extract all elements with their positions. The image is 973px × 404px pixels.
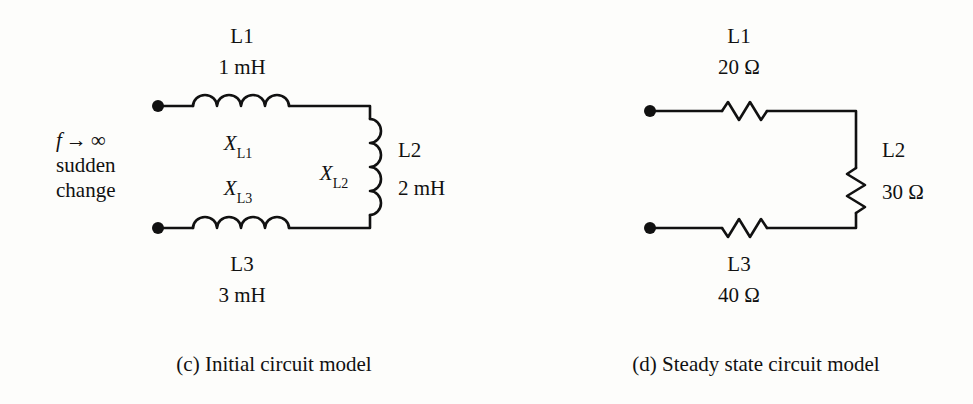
component-value-L2: 2 mH <box>398 178 445 199</box>
panel-caption-c: (c) Initial circuit model <box>176 352 371 377</box>
component-value-L1: 1 mH <box>218 57 265 78</box>
wire-top-right <box>289 106 370 119</box>
reactance-symbol-L1: X <box>224 131 237 155</box>
panel-caption-d: (d) Steady state circuit model <box>632 352 879 377</box>
terminal-dot-top <box>152 100 164 112</box>
inductor-symbol-L2 <box>370 119 381 215</box>
wire-top-right <box>767 111 856 168</box>
component-name-L2: L2 <box>882 140 905 161</box>
component-name-L3: L3 <box>230 254 253 275</box>
wire-right-bottom <box>767 213 856 228</box>
terminal-dot-bottom <box>152 222 164 234</box>
frequency-symbol: f <box>56 128 62 152</box>
resistor-symbol-L1 <box>722 102 767 120</box>
resistor-symbol-L3 <box>722 219 767 237</box>
infinity-symbol: ∞ <box>91 128 106 152</box>
terminal-dot-bottom <box>644 222 656 234</box>
inductor-symbol-L3 <box>193 217 289 228</box>
figure-canvas: L1 1 mH f→∞ sudden change XL1 XL3 XL2 L2… <box>0 0 973 404</box>
terminal-dot-top <box>644 105 656 117</box>
component-name-L1: L1 <box>230 26 253 47</box>
reactance-symbol-L2: X <box>320 161 333 185</box>
inductor-symbol-L1 <box>193 95 289 106</box>
frequency-condition-note: f→∞ sudden change <box>56 128 116 203</box>
component-name-L3: L3 <box>727 254 750 275</box>
steady-state-circuit-panel: L1 20 Ω L2 30 Ω L3 40 Ω (d) Steady state… <box>490 0 973 404</box>
resistor-symbol-L2 <box>847 168 865 213</box>
reactance-subscript-L2: L2 <box>333 176 349 191</box>
reactance-subscript-L3: L3 <box>237 191 253 206</box>
wire-right-bottom <box>289 215 370 228</box>
reactance-label-L2: XL2 <box>320 163 348 188</box>
component-value-L2: 30 Ω <box>882 182 924 203</box>
component-name-L1: L1 <box>727 26 750 47</box>
arrow-icon: → <box>62 128 91 152</box>
component-value-L1: 20 Ω <box>718 57 760 78</box>
component-value-L3: 40 Ω <box>718 285 760 306</box>
component-name-L2: L2 <box>398 140 421 161</box>
frequency-condition-line-2: sudden <box>56 153 116 178</box>
reactance-label-L1: XL1 <box>224 133 252 158</box>
initial-circuit-panel: L1 1 mH f→∞ sudden change XL1 XL3 XL2 L2… <box>0 0 490 404</box>
reactance-label-L3: XL3 <box>224 178 252 203</box>
reactance-subscript-L1: L1 <box>237 146 253 161</box>
component-value-L3: 3 mH <box>218 285 265 306</box>
reactance-symbol-L3: X <box>224 176 237 200</box>
frequency-condition-line-3: change <box>56 178 116 203</box>
frequency-condition-line-1: f→∞ <box>56 128 116 153</box>
